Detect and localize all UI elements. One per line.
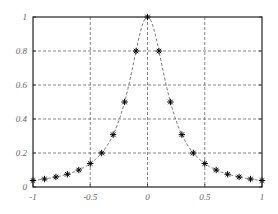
y-tick-label: 0.2 bbox=[16, 148, 28, 158]
asterisk-marker-icon bbox=[53, 174, 59, 180]
y-tick-label: 0.4 bbox=[16, 114, 28, 124]
asterisk-marker-icon bbox=[133, 48, 139, 54]
asterisk-marker-icon bbox=[190, 150, 196, 156]
y-tick-label: 0 bbox=[23, 182, 28, 192]
x-tick-label: -0.5 bbox=[83, 192, 98, 202]
asterisk-marker-icon bbox=[247, 176, 253, 182]
runge-function-chart: -1-0.500.51 00.20.40.60.81 bbox=[0, 0, 278, 214]
asterisk-marker-icon bbox=[121, 99, 127, 105]
asterisk-marker-icon bbox=[110, 131, 116, 137]
y-tick-label: 0.6 bbox=[16, 80, 28, 90]
asterisk-marker-icon bbox=[156, 48, 162, 54]
asterisk-marker-icon bbox=[179, 131, 185, 137]
grid-lines bbox=[33, 17, 262, 187]
asterisk-marker-icon bbox=[41, 176, 47, 182]
asterisk-marker-icon bbox=[213, 167, 219, 173]
asterisk-marker-icon bbox=[64, 171, 70, 177]
asterisk-marker-icon bbox=[167, 99, 173, 105]
asterisk-marker-icon bbox=[236, 174, 242, 180]
y-tick-label: 0.8 bbox=[16, 46, 28, 56]
asterisk-marker-icon bbox=[224, 171, 230, 177]
x-tick-label: -1 bbox=[29, 192, 37, 202]
x-tick-label: 0 bbox=[145, 192, 150, 202]
asterisk-marker-icon bbox=[87, 160, 93, 166]
x-tick-label: 1 bbox=[260, 192, 265, 202]
asterisk-marker-icon bbox=[202, 160, 208, 166]
asterisk-marker-icon bbox=[99, 150, 105, 156]
y-tick-label: 1 bbox=[23, 12, 28, 22]
x-tick-label: 0.5 bbox=[199, 192, 211, 202]
asterisk-marker-icon bbox=[76, 167, 82, 173]
